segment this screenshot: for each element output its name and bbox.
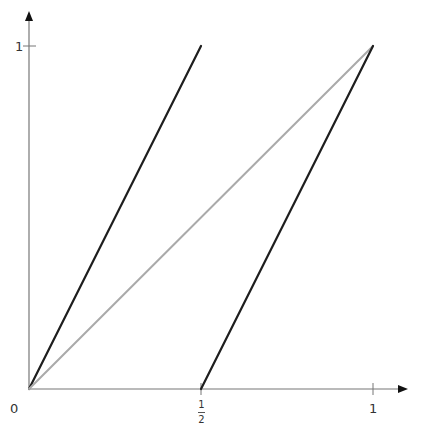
y-tick-label-1: 1 [15, 40, 23, 53]
doubling-map-right-branch [201, 46, 373, 389]
doubling-map-left-branch [29, 46, 201, 389]
plot-area [0, 0, 422, 441]
fraction-bar [198, 412, 205, 413]
x-axis-arrow-icon [398, 385, 408, 393]
x-tick-label-1: 1 [369, 402, 377, 415]
origin-label: 0 [10, 402, 18, 415]
y-axis-arrow-icon [25, 11, 33, 21]
identity-line [29, 46, 373, 389]
series-layer [29, 46, 373, 389]
x-tick-label-half: 1 2 [198, 400, 205, 425]
fraction-denominator: 2 [198, 415, 204, 425]
fraction-numerator: 1 [198, 400, 204, 410]
